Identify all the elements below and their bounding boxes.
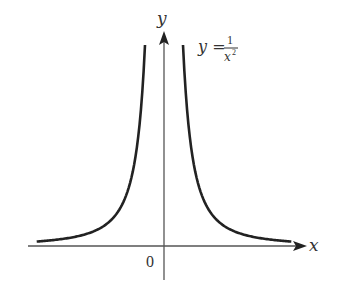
- curve-left: [37, 45, 145, 242]
- y-axis-label: y: [156, 8, 167, 28]
- annotation-exponent: 2: [232, 48, 236, 57]
- annotation-lhs: y =: [197, 37, 226, 56]
- annotation-numerator: 1: [227, 33, 233, 47]
- origin-label: 0: [146, 253, 154, 270]
- plot-canvas: x y 0 y = 1 x 2: [0, 0, 337, 295]
- function-annotation: y = 1 x 2: [197, 33, 238, 64]
- annotation-denominator: x: [224, 50, 231, 64]
- curve-right: [183, 45, 291, 242]
- x-axis-label: x: [309, 235, 319, 255]
